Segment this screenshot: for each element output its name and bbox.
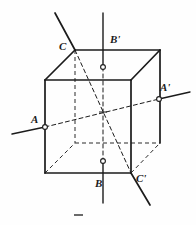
- label-B: B: [95, 178, 102, 189]
- cube-edge-top-right-diagonal: [131, 50, 160, 80]
- axis-AA-prime-outer-left: [12, 127, 45, 134]
- label-A-prime: A': [160, 82, 170, 93]
- cube-edge-bottom-left-diagonal: [45, 143, 75, 173]
- marker-Ap-right-face: [157, 97, 162, 102]
- label-C: C: [59, 41, 66, 52]
- axis-AA-prime-inner: [45, 99, 159, 127]
- marker-A-left-face: [43, 125, 48, 130]
- cube-edge-top-left-diagonal: [45, 50, 75, 80]
- cube-diagram-canvas: [0, 0, 196, 225]
- cube-edge-bottom-right-diagonal: [131, 143, 160, 173]
- axis-AA-prime: [12, 92, 190, 134]
- label-C-prime: C': [136, 173, 146, 184]
- geometry-figure: C B' A' A B C': [0, 0, 196, 225]
- footer-dash-mark: [74, 214, 83, 216]
- axis-AA-prime-outer-right: [159, 92, 190, 99]
- label-B-prime: B': [110, 34, 120, 45]
- marker-Bp-top-face: [101, 65, 106, 70]
- label-A: A: [31, 114, 38, 125]
- marker-B-bottom-face: [101, 159, 106, 164]
